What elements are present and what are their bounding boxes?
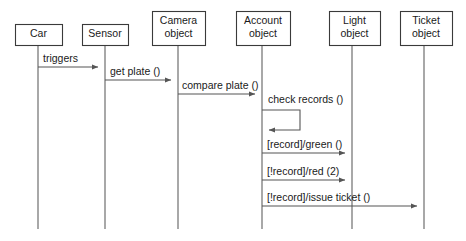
messages-layer: triggersget plate ()compare plate ()chec… [38,52,417,206]
message-label-msg-compare-plate: compare plate () [182,79,258,91]
participant-label-ticket-object: object [412,27,440,39]
participant-label-sensor: Sensor [88,27,122,39]
self-message-path-msg-check-records [262,110,300,130]
message-msg-red[interactable]: [!record]/red (2) [262,165,345,180]
participant-label-account-object: Account [244,14,282,26]
participant-sensor[interactable]: Sensor [83,25,129,230]
message-label-msg-green: [record]/green () [267,138,342,150]
message-msg-get-plate[interactable]: get plate () [105,65,171,80]
message-label-msg-issue-ticket: [!record]/issue ticket () [267,191,370,203]
sequence-diagram-svg: CarSensorCameraobjectAccountobjectLighto… [0,0,466,241]
participant-label-camera-object: Camera [160,14,198,26]
participant-label-light-object: object [340,27,368,39]
participant-label-camera-object: object [164,27,192,39]
participant-label-ticket-object: Ticket [412,14,440,26]
sequence-diagram-canvas: CarSensorCameraobjectAccountobjectLighto… [0,0,466,241]
message-label-msg-red: [!record]/red (2) [267,165,339,177]
participant-camera-object[interactable]: Cameraobject [153,12,206,230]
participant-ticket-object[interactable]: Ticketobject [401,12,453,230]
message-msg-triggers[interactable]: triggers [38,52,98,67]
message-msg-check-records[interactable]: check records () [262,93,343,130]
message-msg-green[interactable]: [record]/green () [262,138,345,153]
message-msg-issue-ticket[interactable]: [!record]/issue ticket () [262,191,417,206]
message-label-msg-get-plate: get plate () [110,65,160,77]
participant-label-light-object: Light [343,14,366,26]
lifelines-layer: CarSensorCameraobjectAccountobjectLighto… [16,12,453,230]
message-msg-compare-plate[interactable]: compare plate () [178,79,258,94]
participant-label-account-object: object [249,27,277,39]
participant-label-car: Car [30,27,47,39]
message-label-msg-check-records: check records () [268,93,343,105]
message-label-msg-triggers: triggers [43,52,78,64]
